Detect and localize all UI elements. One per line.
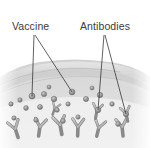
- edge-vignette: [0, 56, 150, 148]
- vaccine-particle: [55, 108, 60, 113]
- vaccine-particle: [116, 122, 121, 127]
- vaccine-particle: [34, 118, 39, 123]
- tissue-body: [0, 56, 150, 148]
- vaccine-particle: [90, 86, 94, 90]
- vaccine-particle: [47, 85, 51, 89]
- vaccine-particle: [18, 98, 22, 102]
- diagram-canvas: Vaccine Antibodies: [0, 0, 150, 148]
- vaccine-particle: [51, 96, 57, 102]
- vaccine-particle: [24, 106, 29, 111]
- label-antibodies: Antibodies: [80, 20, 130, 32]
- label-vaccine: Vaccine: [12, 20, 49, 32]
- vaccine-particle: [9, 102, 13, 106]
- vaccine-particle: [76, 115, 80, 119]
- vaccine-particle: [41, 91, 46, 96]
- vaccine-antibody-diagram: Vaccine Antibodies: [0, 0, 150, 148]
- vaccine-particle: [66, 102, 70, 106]
- vaccine-particle: [83, 96, 88, 101]
- vaccine-particle: [12, 116, 16, 120]
- vaccine-particle: [38, 105, 43, 110]
- vaccine-particle: [110, 102, 115, 107]
- vaccine-particle: [61, 119, 66, 124]
- vaccine-particle: [97, 92, 102, 97]
